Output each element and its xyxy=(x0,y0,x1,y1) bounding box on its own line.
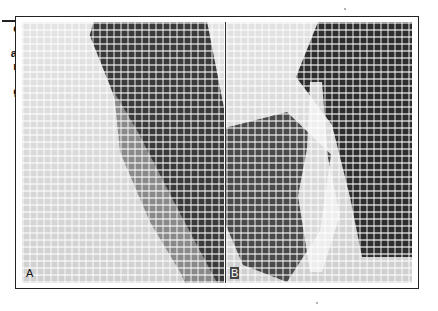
figure-frame: A B xyxy=(15,16,419,289)
figure-panel-a: A xyxy=(22,22,224,283)
figure-panel-b: B xyxy=(225,22,412,283)
scan-speck xyxy=(316,302,318,304)
panel-label-b: B xyxy=(230,267,239,279)
scan-speck xyxy=(344,8,346,10)
panel-label-a: A xyxy=(26,267,33,279)
